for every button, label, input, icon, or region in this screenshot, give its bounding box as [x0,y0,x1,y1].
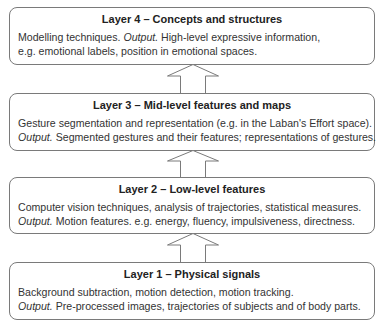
layer-2-box: Layer 2 – Low-level features Computer vi… [9,177,375,234]
layer-1-title: Layer 1 – Physical signals [10,268,374,281]
layer-1-box: Layer 1 – Physical signals Background su… [9,262,375,320]
layer-4-line-1: Modelling techniques. Output. High-level… [18,30,370,44]
layer-4-description: Modelling techniques. Output. High-level… [18,30,370,58]
layer-1-line-2-output: Pre-processed images, trajectories of su… [53,300,361,312]
hollow-up-arrow-icon [167,64,219,94]
layer-3-line-2-output: Segmented gestures and their features; r… [53,131,376,143]
up-arrow-1-to-2 [167,233,219,263]
output-label: Output. [18,131,53,143]
layer-4-title: Layer 4 – Concepts and structures [10,13,374,26]
output-label: Output. [18,300,53,312]
layer-2-line-1-text: Computer vision techniques, analysis of … [18,201,361,213]
layer-4-line-2: e.g. emotional labels, position in emoti… [18,44,370,58]
layer-1-line-2: Output. Pre-processed images, trajectori… [18,299,370,313]
layer-4-box: Layer 4 – Concepts and structures Modell… [9,7,375,65]
layer-2-line-2-output: Motion features. e.g. energy, fluency, i… [53,215,355,227]
layer-3-line-1-text: Gesture segmentation and representation … [18,117,372,129]
layer-1-line-1: Background subtraction, motion detection… [18,285,370,299]
output-label: Output. [18,215,53,227]
output-label: Output. [123,31,158,43]
layer-2-line-2: Output. Motion features. e.g. energy, fl… [18,214,370,228]
layer-4-line-1-text: Modelling techniques. [18,31,123,43]
layer-4-line-1-output: High-level expressive information, [158,31,320,43]
layer-1-description: Background subtraction, motion detection… [18,285,370,313]
layer-3-title: Layer 3 – Mid-level features and maps [10,99,374,112]
layer-3-description: Gesture segmentation and representation … [18,116,370,144]
hollow-up-arrow-icon [167,233,219,263]
layer-1-line-1-text: Background subtraction, motion detection… [18,286,294,298]
layer-3-box: Layer 3 – Mid-level features and maps Ge… [9,93,375,151]
layer-3-line-1: Gesture segmentation and representation … [18,116,370,130]
hollow-up-arrow-icon [167,150,219,178]
up-arrow-3-to-4 [167,64,219,94]
layer-2-description: Computer vision techniques, analysis of … [18,200,370,228]
layer-3-line-2: Output. Segmented gestures and their fea… [18,130,370,144]
layer-4-line-2-text: e.g. emotional labels, position in emoti… [18,45,257,57]
layer-2-line-1: Computer vision techniques, analysis of … [18,200,370,214]
up-arrow-2-to-3 [167,150,219,178]
layer-2-title: Layer 2 – Low-level features [10,183,374,196]
